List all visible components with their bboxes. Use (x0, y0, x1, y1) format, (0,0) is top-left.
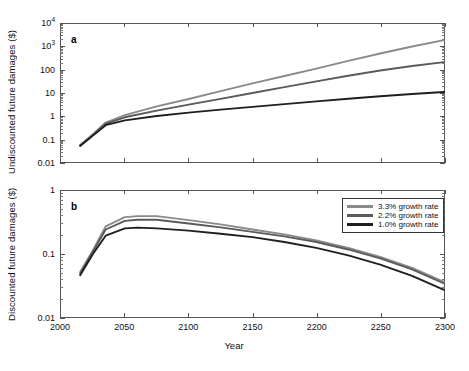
y-minor-tick (60, 63, 63, 64)
y-minor-tick (60, 50, 63, 51)
panel-a-plot-area (60, 23, 445, 163)
y-minor-tick (60, 200, 63, 201)
y-minor-tick (442, 72, 445, 73)
legend-label: 3.3% growth rate (378, 202, 438, 211)
y-tick-label: 0.1 (0, 135, 55, 145)
x-tick-mark (253, 313, 254, 318)
x-tick-mark (253, 190, 254, 194)
y-minor-tick (442, 149, 445, 150)
x-tick-mark (445, 23, 446, 27)
x-tick-mark (381, 158, 382, 163)
y-minor-tick (442, 49, 445, 50)
x-tick-mark (188, 23, 189, 27)
panel-a-letter: a (71, 34, 77, 45)
y-minor-tick (442, 273, 445, 274)
y-minor-tick (60, 215, 63, 216)
y-minor-tick (60, 105, 63, 106)
y-minor-tick (442, 299, 445, 300)
y-minor-tick (60, 73, 63, 74)
y-minor-tick (60, 129, 63, 130)
y-minor-tick (60, 75, 63, 76)
y-minor-tick (442, 53, 445, 54)
y-minor-tick (60, 141, 63, 142)
panel-b-letter: b (71, 201, 77, 212)
y-minor-tick (442, 126, 445, 127)
y-minor-tick (60, 119, 63, 120)
y-minor-tick (60, 257, 63, 258)
x-tick-label: 2050 (114, 322, 134, 332)
figure-root: Undiscounted future damages ($) a 104103… (0, 0, 469, 371)
y-minor-tick (60, 35, 63, 36)
x-tick-label: 2250 (371, 322, 391, 332)
y-minor-tick (442, 156, 445, 157)
y-minor-tick (442, 95, 445, 96)
y-minor-tick (442, 75, 445, 76)
series-line (80, 40, 444, 145)
y-minor-tick (442, 52, 445, 53)
y-minor-tick (442, 109, 445, 110)
y-minor-tick (60, 97, 63, 98)
x-tick-mark (381, 190, 382, 194)
x-tick-label: 2300 (435, 322, 455, 332)
y-minor-tick (442, 119, 445, 120)
y-minor-tick (60, 209, 63, 210)
y-tick-label: 1 (0, 111, 55, 121)
y-minor-tick (442, 123, 445, 124)
x-tick-mark (445, 313, 446, 318)
x-tick-mark (124, 190, 125, 194)
y-minor-tick (60, 32, 63, 33)
y-minor-tick (442, 145, 445, 146)
y-tick-mark (60, 318, 65, 319)
y-minor-tick (60, 79, 63, 80)
y-minor-tick (442, 94, 445, 95)
y-minor-tick (60, 145, 63, 146)
y-minor-tick (442, 120, 445, 121)
x-tick-label: 2100 (178, 322, 198, 332)
x-tick-mark (60, 313, 61, 318)
y-minor-tick (60, 98, 63, 99)
y-minor-tick (442, 86, 445, 87)
x-tick-mark (381, 23, 382, 27)
y-tick-label: 0.01 (0, 158, 55, 168)
y-minor-tick (442, 235, 445, 236)
y-tick-mark (440, 318, 445, 319)
x-tick-mark (253, 23, 254, 27)
x-tick-mark (317, 23, 318, 27)
y-minor-tick (60, 100, 63, 101)
x-tick-mark (60, 190, 61, 194)
y-minor-tick (442, 28, 445, 29)
y-minor-tick (60, 235, 63, 236)
x-tick-mark (124, 23, 125, 27)
x-tick-mark (60, 158, 61, 163)
y-minor-tick (442, 82, 445, 83)
y-minor-tick (60, 86, 63, 87)
y-minor-tick (442, 117, 445, 118)
y-minor-tick (442, 97, 445, 98)
y-minor-tick (60, 287, 63, 288)
y-minor-tick (442, 77, 445, 78)
y-minor-tick (60, 120, 63, 121)
y-minor-tick (60, 123, 63, 124)
y-minor-tick (442, 56, 445, 57)
y-minor-tick (60, 223, 63, 224)
y-minor-tick (60, 30, 63, 31)
y-minor-tick (60, 72, 63, 73)
y-tick-label: 103 (0, 41, 55, 51)
y-minor-tick (442, 152, 445, 153)
y-minor-tick (442, 142, 445, 143)
y-minor-tick (60, 59, 63, 60)
y-minor-tick (60, 82, 63, 83)
series-line (80, 228, 444, 290)
x-tick-mark (188, 158, 189, 163)
series-line (80, 92, 444, 146)
y-minor-tick (442, 141, 445, 142)
y-minor-tick (442, 105, 445, 106)
y-minor-tick (60, 299, 63, 300)
y-minor-tick (60, 95, 63, 96)
y-minor-tick (60, 71, 63, 72)
legend-color-swatch (347, 205, 373, 208)
y-minor-tick (60, 39, 63, 40)
x-tick-label: 2150 (242, 322, 262, 332)
x-tick-mark (124, 313, 125, 318)
y-minor-tick (60, 56, 63, 57)
